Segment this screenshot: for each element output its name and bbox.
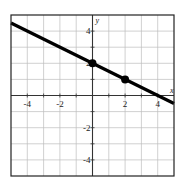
coordinate-plane: -4-22442-2-4 x y	[0, 0, 183, 186]
y-tick-label: 4	[86, 26, 91, 36]
y-axis-label: y	[95, 16, 100, 25]
point-marker	[121, 75, 129, 83]
y-tick-label: -4	[83, 155, 91, 165]
x-tick-label: -4	[24, 99, 32, 109]
point-marker	[89, 59, 97, 67]
x-axis-label: x	[169, 86, 174, 95]
y-tick-label: -2	[83, 123, 91, 133]
x-tick-label: 2	[123, 99, 128, 109]
x-tick-label: -2	[56, 99, 64, 109]
axes	[11, 15, 174, 176]
x-tick-label: 4	[155, 99, 160, 109]
